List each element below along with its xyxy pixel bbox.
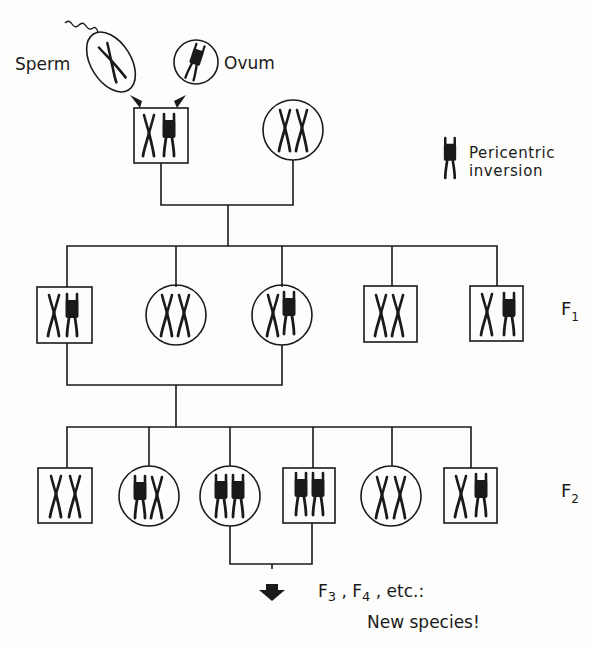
f4-subscript: 4: [362, 589, 370, 604]
p-female: [263, 100, 323, 160]
new-species-label: New species!: [367, 614, 480, 631]
f1-individual-3: [252, 285, 312, 345]
f1-generation-label: F1: [561, 300, 579, 323]
connector-lines: [67, 160, 497, 569]
inverted-chromosome-icon: [444, 138, 456, 178]
fertilization-arrows: [130, 95, 186, 108]
f2-individual-4: [283, 468, 335, 523]
f1-individual-4: [364, 286, 417, 342]
ovum-gamete: [174, 40, 218, 84]
f2-individual-6: [444, 468, 497, 523]
f1-individual-5: [470, 286, 523, 341]
f1-individual-1: [37, 287, 92, 343]
pedigree-diagram: Sperm Ovum Pericentric inversion F1 F2 F…: [0, 0, 593, 649]
legend-line-2: inversion: [469, 162, 555, 180]
legend-text: Pericentric inversion: [469, 144, 555, 180]
f2-letter: F: [561, 480, 571, 501]
sperm-gamete: [65, 21, 145, 100]
f1-letter: F: [561, 298, 571, 319]
f3-subscript: 3: [328, 589, 336, 604]
ovum-label: Ovum: [224, 55, 275, 72]
f1-individual-2: [146, 285, 206, 345]
f2-generation-label: F2: [561, 482, 579, 505]
down-arrow-icon: [259, 584, 285, 601]
f3-letter: F: [318, 581, 328, 601]
sperm-label: Sperm: [15, 56, 70, 73]
comma-2: ,: [376, 581, 381, 601]
f2-individual-2: [119, 466, 179, 526]
future-generations-label: F3 , F4 , etc.:: [318, 583, 424, 603]
etc-text: etc.:: [387, 581, 425, 601]
f2-individual-1: [38, 468, 92, 523]
p-male: [134, 108, 188, 163]
f2-individual-3: [200, 466, 260, 526]
f4-letter: F: [352, 581, 362, 601]
legend-line-1: Pericentric: [469, 144, 555, 162]
pedigree-svg: [0, 0, 593, 649]
f2-individual-5: [361, 466, 421, 526]
f2-subscript: 2: [571, 492, 579, 506]
comma-1: ,: [341, 581, 346, 601]
f1-subscript: 1: [571, 310, 579, 324]
